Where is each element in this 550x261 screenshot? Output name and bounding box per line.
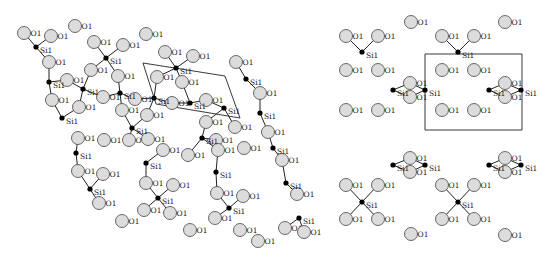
silicon-atom: Si1 <box>87 186 106 197</box>
oxygen-atom: O1 <box>43 56 67 69</box>
oxygen-atom: O1 <box>404 152 428 165</box>
oxygen-label: O1 <box>110 170 121 179</box>
silicon-label: Si1 <box>290 182 302 191</box>
oxygen-atom: O1 <box>116 215 140 228</box>
oxygen-label: O1 <box>481 106 492 115</box>
oxygen-label: O1 <box>59 96 70 105</box>
oxygen-label: O1 <box>130 41 141 50</box>
oxygen-label: O1 <box>106 199 117 208</box>
oxygen-atom: O1 <box>405 16 429 29</box>
oxygen-label: O1 <box>86 103 97 112</box>
oxygen-atom: O1 <box>209 212 233 225</box>
oxygen-atom: O1 <box>372 213 396 226</box>
silicon-atom: Si1 <box>257 110 276 121</box>
oxygen-atom: O1 <box>254 87 278 100</box>
oxygen-label: O1 <box>155 135 166 144</box>
silicon-label: Si1 <box>429 164 441 173</box>
silicon-label: Si1 <box>220 171 232 180</box>
oxygen-label: O1 <box>172 48 183 57</box>
oxygen-label: O1 <box>418 230 429 239</box>
oxygen-label: O1 <box>129 217 140 226</box>
oxygen-label: O1 <box>154 111 165 120</box>
oxygen-atom: O1 <box>436 64 460 77</box>
oxygen-label: O1 <box>418 18 429 27</box>
silicon-label: Si1 <box>462 51 474 60</box>
silicon-atom: Si1 <box>59 115 78 126</box>
silicon-label: Si1 <box>264 112 276 121</box>
oxygen-atom: O1 <box>164 207 188 220</box>
oxygen-label: O1 <box>449 66 460 75</box>
silicon-label: Si1 <box>110 57 122 66</box>
silicon-label: Si1 <box>493 164 505 173</box>
oxygen-atom: O1 <box>176 76 200 89</box>
silicon-atom: Si1 <box>173 65 192 76</box>
oxygen-label: O1 <box>353 181 364 190</box>
oxygen-atom: O1 <box>93 197 117 210</box>
oxygen-label: O1 <box>170 146 181 155</box>
oxygen-atom: O1 <box>436 213 460 226</box>
oxygen-atom: O1 <box>468 30 492 43</box>
oxygen-atom: O1 <box>262 126 286 139</box>
oxygen-atom: O1 <box>151 71 175 84</box>
silicon-atom: Si1 <box>486 87 505 98</box>
oxygen-label: O1 <box>449 106 460 115</box>
silicon-label: Si1 <box>303 217 315 226</box>
unit-cell-layer <box>143 54 522 130</box>
oxygen-atom: O1 <box>234 224 258 237</box>
oxygen-atom: O1 <box>46 94 70 107</box>
silicon-label: Si1 <box>194 102 206 111</box>
oxygen-label: O1 <box>31 29 42 38</box>
oxygen-label: O1 <box>213 118 224 127</box>
oxygen-atom: O1 <box>140 28 164 41</box>
oxygen-label: O1 <box>56 58 67 67</box>
oxygen-atom: O1 <box>340 64 364 77</box>
silicon-label: Si1 <box>158 97 170 106</box>
oxygen-atom: O1 <box>88 36 112 49</box>
oxygen-atom: O1 <box>340 30 364 43</box>
oxygen-atom: O1 <box>69 20 93 33</box>
oxygen-label: O1 <box>512 18 523 27</box>
silicon-atom: Si1 <box>155 195 174 206</box>
oxygen-label: O1 <box>101 38 112 47</box>
oxygen-label: O1 <box>385 106 396 115</box>
oxygen-label: O1 <box>197 226 208 235</box>
silicon-label: Si1 <box>525 164 537 173</box>
oxygen-atom: O1 <box>499 77 523 90</box>
oxygen-label: O1 <box>251 144 262 153</box>
oxygen-atom: O1 <box>468 179 492 192</box>
oxygen-atom: O1 <box>372 104 396 117</box>
oxygen-label: O1 <box>200 52 211 61</box>
oxygen-label: O1 <box>85 134 96 143</box>
crystal-structure-diagram: O1O1O1O1O1O1O1O1O1O1O1O1O1O1O1O1O1O1O1O1… <box>0 0 550 261</box>
oxygen-label: O1 <box>353 32 364 41</box>
silicon-label: Si1 <box>429 89 441 98</box>
oxygen-atom: O1 <box>499 229 523 242</box>
silicon-label: Si1 <box>53 81 65 90</box>
oxygen-label: O1 <box>512 154 523 163</box>
silicon-label: Si1 <box>124 92 136 101</box>
silicon-atom: Si1 <box>199 135 218 146</box>
silicon-label: Si1 <box>397 89 409 98</box>
silicon-label: Si1 <box>40 46 52 55</box>
oxygen-label: O1 <box>111 136 122 145</box>
oxygen-atom: O1 <box>18 27 42 40</box>
silicon-atom: Si1 <box>243 76 262 87</box>
oxygen-label: O1 <box>481 66 492 75</box>
oxygen-atom: O1 <box>499 16 523 29</box>
silicon-label: Si1 <box>233 207 245 216</box>
oxygen-label: O1 <box>247 226 258 235</box>
oxygen-atom: O1 <box>499 152 523 165</box>
oxygen-label: O1 <box>512 231 523 240</box>
silicon-atom: Si1 <box>390 87 409 98</box>
oxygen-atom: O1 <box>252 235 276 248</box>
oxygen-atom: O1 <box>372 179 396 192</box>
oxygen-atom: O1 <box>157 144 181 157</box>
oxygen-label: O1 <box>512 93 523 102</box>
oxygen-atom: O1 <box>211 187 235 200</box>
oxygen-label: O1 <box>74 76 85 85</box>
oxygen-atom: O1 <box>45 30 69 43</box>
oxygen-atom: O1 <box>167 179 191 192</box>
oxygen-label: O1 <box>449 32 460 41</box>
silicon-atom: Si1 <box>486 162 505 173</box>
oxygen-label: O1 <box>311 228 322 237</box>
